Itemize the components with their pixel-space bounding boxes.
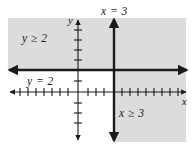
region-label-x-ge-3: x ≥ 3 xyxy=(119,108,144,120)
axis-label-y: y xyxy=(68,16,73,27)
shaded-region-x-ge-3 xyxy=(114,18,186,142)
axis-label-x: x xyxy=(182,97,187,108)
region-label-y-ge-2: y ≥ 2 xyxy=(22,33,47,45)
graph-canvas xyxy=(0,0,196,148)
boundary-label-x-equals-3: x = 3 xyxy=(101,6,128,18)
inequality-graph-figure: y ≥ 2 y = 2 x = 3 x ≥ 3 x y xyxy=(0,0,196,148)
boundary-label-y-equals-2: y = 2 xyxy=(27,76,54,88)
